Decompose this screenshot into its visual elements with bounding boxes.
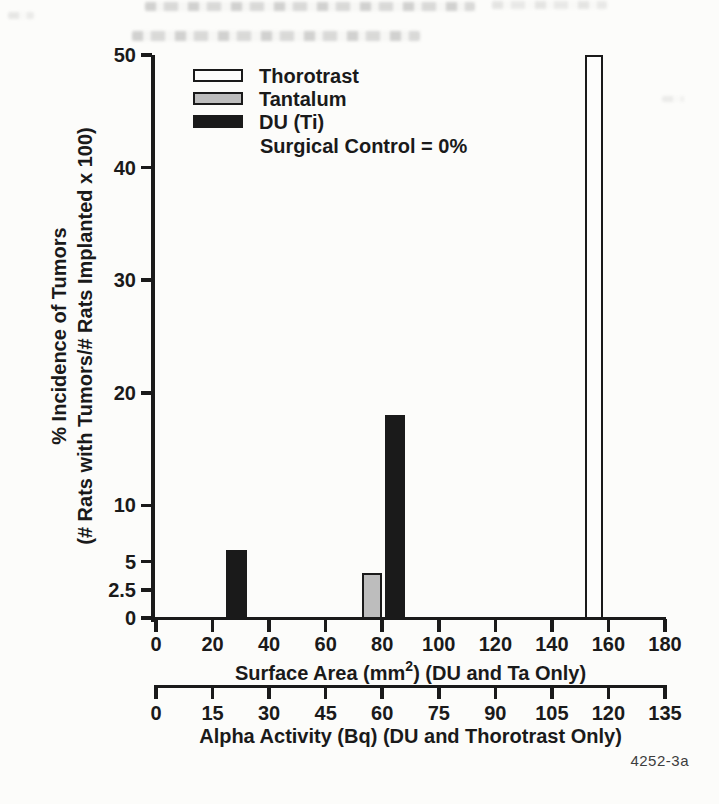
legend-item-thorotrast: Thorotrast [193, 64, 467, 87]
x-tick [267, 619, 271, 633]
secondary-x-tick-label: 135 [630, 703, 700, 723]
bar-du-ti- [385, 415, 405, 620]
x-tick [437, 619, 441, 633]
bar-du-ti- [226, 550, 247, 620]
scanned-page: % Incidence of Tumors (# Rats with Tumor… [0, 0, 719, 804]
y-tick-label: 20 [76, 383, 136, 403]
legend-label-thorotrast: Thorotrast [259, 65, 359, 87]
x-axis-title-primary: Surface Area (mm2) (DU and Ta Only) [156, 656, 665, 684]
x-axis-line [141, 617, 666, 621]
thorotrast-swatch [193, 69, 243, 82]
y-tick [141, 560, 152, 564]
x-tick [324, 619, 328, 633]
y-tick-label: 0 [76, 608, 136, 628]
y-tick [141, 278, 152, 282]
bar-thorotrast [585, 55, 603, 620]
legend: Thorotrast Tantalum DU (Ti) Surgical Con… [193, 64, 467, 157]
squared-superscript: 2 [405, 658, 413, 674]
x-axis-title-secondary: Alpha Activity (Bq) (DU and Thorotrast O… [156, 725, 665, 747]
x-axis-title-primary-suffix: ) (DU and Ta Only) [413, 662, 586, 684]
du-ti-swatch [193, 115, 243, 128]
legend-item-tantalum: Tantalum [193, 87, 467, 110]
y-tick-label: 5 [76, 552, 136, 572]
tantalum-swatch [193, 92, 243, 105]
x-tick [211, 619, 215, 633]
bar-tantalum [362, 573, 382, 620]
y-tick-label: 50 [76, 45, 136, 65]
figure-number: 4252-3a [630, 752, 689, 769]
y-tick-label: 10 [76, 495, 136, 515]
y-tick-label: 40 [76, 158, 136, 178]
x-tick [607, 619, 611, 633]
x-axis-title-primary-text: Surface Area (mm [235, 662, 405, 684]
y-axis-title-line1: % Incidence of Tumors [46, 36, 72, 636]
y-tick-label: 30 [76, 270, 136, 290]
y-tick [141, 53, 152, 57]
legend-note: Surgical Control = 0% [193, 135, 467, 157]
x-tick [663, 619, 667, 633]
y-axis-title-line2: (# Rats with Tumors/# Rats Implanted x 1… [72, 36, 98, 636]
x-tick [550, 619, 554, 633]
x-tick [380, 619, 384, 633]
y-tick [141, 588, 152, 592]
legend-label-du-ti: DU (Ti) [259, 111, 324, 133]
y-tick [141, 504, 152, 508]
y-tick [141, 391, 152, 395]
x-tick [494, 619, 498, 633]
y-tick [141, 166, 152, 170]
y-axis-title: % Incidence of Tumors (# Rats with Tumor… [46, 36, 98, 636]
x-tick-label: 180 [630, 634, 700, 654]
legend-item-du-ti: DU (Ti) [193, 110, 467, 133]
y-axis-line [151, 55, 155, 622]
tumor-incidence-bar-chart: % Incidence of Tumors (# Rats with Tumor… [0, 0, 719, 804]
legend-label-tantalum: Tantalum [259, 88, 346, 110]
x-tick [154, 619, 158, 633]
y-tick-label: 2.5 [76, 580, 136, 600]
secondary-axis-line [155, 685, 667, 689]
